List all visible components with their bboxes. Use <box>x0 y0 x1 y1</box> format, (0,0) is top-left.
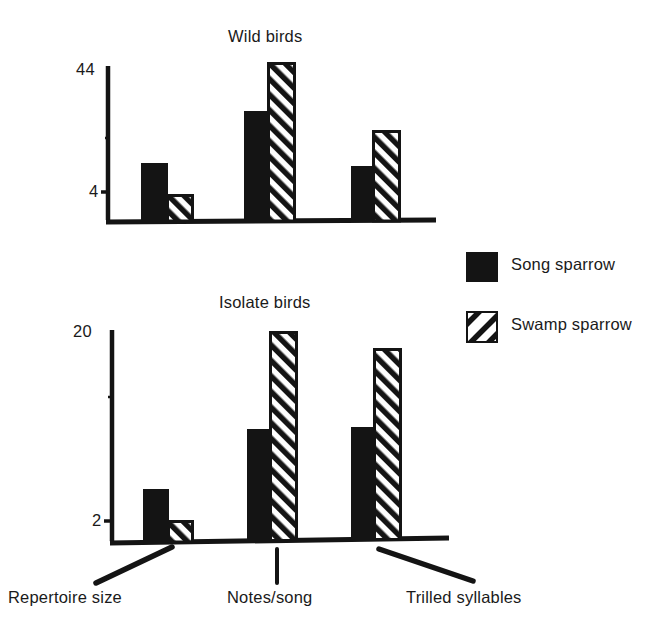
y-tick-label-wild-44: 44 <box>76 60 95 79</box>
bar-wild-trilled-song <box>351 166 375 221</box>
bar-wild-repertoire-swamp <box>168 196 193 222</box>
category-leader-lines <box>96 547 473 583</box>
chart-title-wild-birds: Wild birds <box>228 27 302 46</box>
legend-swatch-swamp-sparrow <box>466 311 498 343</box>
legend-swatch-song-sparrow <box>466 252 498 282</box>
legend-label-swamp-sparrow: Swamp sparrow <box>511 315 632 334</box>
bar-isolate-notes-swamp <box>271 333 297 541</box>
chart-isolate-birds <box>104 330 449 543</box>
bar-isolate-trilled-swamp <box>375 350 401 540</box>
legend-label-song-sparrow: Song sparrow <box>511 255 615 274</box>
y-tick-label-wild-4: 4 <box>89 182 98 201</box>
leader-line-trilled-syllables <box>379 549 473 581</box>
bar-wild-repertoire-song <box>141 163 168 221</box>
category-label-trilled-syllables: Trilled syllables <box>406 588 522 607</box>
bar-wild-notes-song <box>244 111 270 221</box>
chart-wild-birds <box>101 64 436 223</box>
bar-wild-trilled-swamp <box>374 132 400 222</box>
leader-line-repertoire-size <box>96 547 172 583</box>
bar-isolate-repertoire-swamp <box>169 522 193 543</box>
bar-wild-notes-swamp <box>269 64 295 222</box>
chart-title-isolate-birds: Isolate birds <box>219 293 311 312</box>
bar-isolate-trilled-song <box>351 427 375 540</box>
y-tick-label-isolate-20: 20 <box>73 322 92 341</box>
category-label-notes-song: Notes/song <box>227 588 312 607</box>
bar-isolate-repertoire-song <box>143 489 169 542</box>
bar-isolate-notes-song <box>247 429 272 541</box>
legend-hatch-fill <box>468 313 496 341</box>
y-tick-label-isolate-2: 2 <box>92 511 101 530</box>
category-label-repertoire-size: Repertoire size <box>8 588 122 607</box>
